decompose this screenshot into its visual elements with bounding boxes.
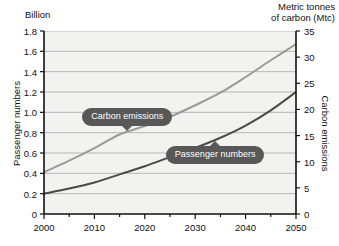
left-axis-tick-label: 0 <box>4 209 37 220</box>
left-axis-tick-label: 1.6 <box>4 46 37 57</box>
x-axis-tick-label: 2040 <box>235 222 256 233</box>
right-axis-tick-label: 30 <box>304 52 315 63</box>
left-axis-tick-label: 0.2 <box>4 188 37 199</box>
x-axis-tick-label: 2030 <box>185 222 206 233</box>
callout-pointer-icon <box>209 141 221 147</box>
right-axis-tick-label: 5 <box>304 182 309 193</box>
callout-pointer-icon <box>121 125 133 131</box>
x-axis-tick-label: 2000 <box>33 222 54 233</box>
left-axis-tick-label: 1.2 <box>4 87 37 98</box>
left-axis-tick-label: 0.8 <box>4 127 37 138</box>
right-axis-title: Carbon emissions <box>320 74 331 194</box>
series-line-passenger-numbers <box>44 92 296 194</box>
x-axis-tick-label: 2010 <box>84 222 105 233</box>
left-axis-tick-label: 1.8 <box>4 26 37 37</box>
left-axis-tick-label: 0.4 <box>4 168 37 179</box>
dual-axis-line-chart: Billion Metric tonnes of carbon (Mtc) Pa… <box>0 0 339 246</box>
right-axis-tick-label: 35 <box>304 26 315 37</box>
right-axis-tick-label: 10 <box>304 156 315 167</box>
left-axis-tick-label: 1.4 <box>4 66 37 77</box>
left-axis-title: Passenger numbers <box>11 64 22 184</box>
x-axis-tick-label: 2050 <box>285 222 306 233</box>
callout-carbon-emissions: Carbon emissions <box>82 108 172 126</box>
left-axis-tick-label: 1.0 <box>4 107 37 118</box>
x-axis-tick-label: 2020 <box>134 222 155 233</box>
callout-passenger-numbers: Passenger numbers <box>166 146 265 164</box>
left-axis-tick-label: 0.6 <box>4 148 37 159</box>
left-axis-unit-label: Billion <box>25 10 50 21</box>
right-axis-tick-label: 25 <box>304 78 315 89</box>
right-axis-tick-label: 0 <box>304 209 309 220</box>
right-axis-unit-label: Metric tonnes of carbon (Mtc) <box>271 2 335 23</box>
right-axis-tick-label: 15 <box>304 130 315 141</box>
right-axis-tick-label: 20 <box>304 104 315 115</box>
